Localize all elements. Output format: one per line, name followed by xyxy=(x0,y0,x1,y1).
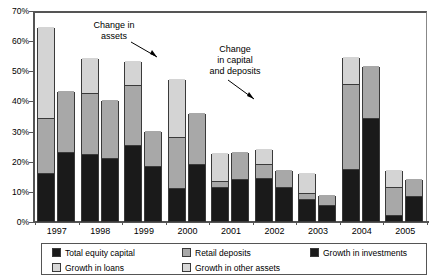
bar-left-1997[interactable] xyxy=(37,28,55,222)
bar-segment xyxy=(189,113,205,165)
bar-segment xyxy=(125,86,141,146)
bar-segment xyxy=(299,194,315,200)
bar-segment xyxy=(169,189,185,221)
y-axis-tick-mark xyxy=(29,71,33,72)
bar-segment xyxy=(82,58,98,94)
bar-segment xyxy=(256,149,272,166)
x-axis-tick-label: 2002 xyxy=(253,225,297,237)
bar-segment xyxy=(386,170,402,188)
x-axis-tick-mark xyxy=(166,221,167,225)
y-axis-tick-mark xyxy=(29,101,33,102)
bar-segment xyxy=(256,165,272,179)
x-axis-tick-mark xyxy=(253,221,254,225)
y-axis-tick-mark xyxy=(29,41,33,42)
bar-group-2005 xyxy=(383,11,427,222)
legend-swatch-icon xyxy=(310,248,319,257)
bar-group-2003 xyxy=(296,11,340,222)
x-axis-tick-mark xyxy=(79,221,80,225)
legend-item-growth-in-loans[interactable]: Growth in loans xyxy=(52,260,124,275)
x-axis-tick-label: 1997 xyxy=(35,225,79,237)
legend-row-2: Growth in loans Growth in other assets xyxy=(42,260,426,275)
bar-left-2005[interactable] xyxy=(385,171,403,222)
y-axis-tick-mark xyxy=(29,222,33,223)
legend-row-1: Total equity capital Retail deposits Gro… xyxy=(42,245,426,260)
x-axis-labels: 199719981999200020012002200320042005 xyxy=(35,225,427,241)
bar-segment xyxy=(212,188,228,221)
bar-right-1998[interactable] xyxy=(101,101,119,222)
bar-group-1999 xyxy=(122,11,166,222)
bar-segment xyxy=(319,206,335,221)
bar-segment xyxy=(102,159,118,221)
x-axis-tick-label: 2001 xyxy=(209,225,253,237)
bar-segment xyxy=(169,79,185,138)
bar-group-2001 xyxy=(209,11,253,222)
bar-segment xyxy=(343,57,359,86)
bar-right-2001[interactable] xyxy=(231,153,249,222)
bar-segment xyxy=(38,27,54,119)
y-axis-tick-mark xyxy=(29,132,33,133)
bar-segment xyxy=(276,170,292,188)
legend-label: Growth in investments xyxy=(323,248,407,258)
x-axis-tick-label: 1999 xyxy=(122,225,166,237)
legend-item-growth-in-other-assets[interactable]: Growth in other assets xyxy=(182,260,280,275)
bar-segment xyxy=(406,197,422,221)
bar-segment xyxy=(189,165,205,221)
bar-segment xyxy=(212,153,228,182)
bar-group-2000 xyxy=(166,11,210,222)
legend-swatch-icon xyxy=(52,263,61,272)
bar-segment xyxy=(82,94,98,154)
bar-segment xyxy=(319,195,335,206)
bar-segment xyxy=(406,179,422,197)
bar-group-1998 xyxy=(79,11,123,222)
bar-group-2002 xyxy=(253,11,297,222)
bar-left-1998[interactable] xyxy=(81,59,99,222)
bar-segment xyxy=(145,167,161,221)
bar-segment xyxy=(125,146,141,221)
legend-swatch-icon xyxy=(182,263,191,272)
bar-segment xyxy=(145,131,161,167)
bar-left-1999[interactable] xyxy=(124,62,142,222)
legend-item-growth-in-investments[interactable]: Growth in investments xyxy=(310,245,407,260)
bar-group-2004 xyxy=(340,11,384,222)
x-axis-tick-label: 1998 xyxy=(79,225,123,237)
x-axis-tick-label: 2005 xyxy=(383,225,427,237)
bar-right-2003[interactable] xyxy=(318,196,336,222)
x-axis-tick-mark xyxy=(122,221,123,225)
x-axis-tick-mark xyxy=(296,221,297,225)
bar-segment xyxy=(256,179,272,221)
bar-segment xyxy=(82,155,98,221)
bar-segment xyxy=(232,152,248,181)
bar-segment xyxy=(212,182,228,188)
bar-segment xyxy=(363,66,379,119)
bar-right-2002[interactable] xyxy=(275,171,293,222)
bar-left-2000[interactable] xyxy=(168,80,186,222)
x-axis-tick-label: 2000 xyxy=(166,225,210,237)
legend-swatch-icon xyxy=(52,248,61,257)
bar-right-2004[interactable] xyxy=(362,67,380,222)
bar-right-1997[interactable] xyxy=(57,92,75,222)
bar-segment xyxy=(276,188,292,221)
bar-segment xyxy=(386,216,402,221)
bar-right-2005[interactable] xyxy=(405,180,423,222)
bar-left-2002[interactable] xyxy=(255,150,273,222)
bar-segment xyxy=(299,173,315,194)
bar-segment xyxy=(38,119,54,175)
bar-left-2003[interactable] xyxy=(298,174,316,222)
legend-item-total-equity-capital[interactable]: Total equity capital xyxy=(52,245,135,260)
x-axis-tick-mark xyxy=(35,221,36,225)
bar-left-2004[interactable] xyxy=(342,58,360,222)
bar-segment xyxy=(299,200,315,221)
bar-right-2000[interactable] xyxy=(188,114,206,222)
bar-right-1999[interactable] xyxy=(144,132,162,222)
annotation-change-in-capital-and-deposits: Change in capital and deposits xyxy=(196,44,274,77)
x-axis-tick-mark xyxy=(209,221,210,225)
bar-segment xyxy=(102,100,118,159)
chart-container: 70%60%50%40%30%20%10%0% 1997199819992000… xyxy=(0,0,435,280)
chart-legend: Total equity capital Retail deposits Gro… xyxy=(41,243,427,275)
x-axis-tick-mark xyxy=(427,221,428,225)
bar-segment xyxy=(58,153,74,221)
bar-left-2001[interactable] xyxy=(211,154,229,222)
legend-item-retail-deposits[interactable]: Retail deposits xyxy=(182,245,251,260)
y-axis-tick-mark xyxy=(29,192,33,193)
bar-group-1997 xyxy=(35,11,79,222)
